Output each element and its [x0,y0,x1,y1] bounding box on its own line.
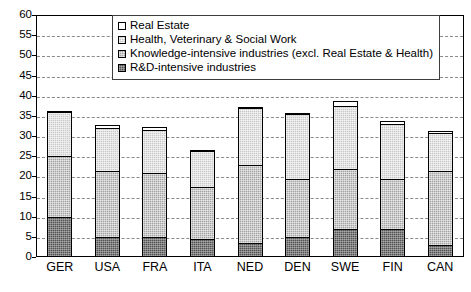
y-tick-label: 35 [19,110,32,122]
bar-segment[interactable] [380,124,405,180]
bar-segment[interactable] [333,229,358,257]
legend-item-knowledge: Knowledge-intensive industries (excl. Re… [118,47,433,61]
bar-segment[interactable] [47,156,72,218]
y-tick-label: 55 [19,29,32,41]
bar-segment[interactable] [238,165,263,244]
bar-segment[interactable] [190,239,215,257]
bar-stack [333,101,358,257]
y-tick-label: 25 [19,150,32,162]
x-tick-label-fin: FIN [369,260,417,274]
bar-segment[interactable] [95,237,120,257]
bar-segment[interactable] [95,171,120,238]
legend-item-health: Health, Veterinary & Social Work [118,33,433,47]
bar-segment[interactable] [95,128,120,172]
bar-stack [285,113,310,257]
y-tick-label: 10 [19,211,32,223]
bar-stack [142,127,167,257]
y-tick-mark [32,257,36,258]
legend-swatch-rnd-icon [118,64,126,72]
y-tick-label: 30 [19,130,32,142]
legend-label-rnd: R&D-intensive industries [130,62,256,74]
y-axis: 051015202530354045505560 [0,15,32,257]
bar-segment[interactable] [47,112,72,157]
bar-segment[interactable] [428,133,453,173]
y-tick-label: 50 [19,50,32,62]
bar-segment[interactable] [190,151,215,187]
bar-stack [95,125,120,257]
bar-stack [190,150,215,257]
bar-segment[interactable] [47,217,72,257]
bar-segment[interactable] [142,173,167,238]
bar-stack [47,111,72,257]
x-tick-label-swe: SWE [321,260,369,274]
x-tick-label-fra: FRA [131,260,179,274]
bar-segment[interactable] [333,169,358,230]
x-axis: GERUSAFRAITANEDDENSWEFINCAN [36,260,464,280]
legend-item-real-estate: Real Estate [118,19,433,33]
x-tick-label-den: DEN [274,260,322,274]
legend-swatch-real-estate-icon [118,22,126,30]
bar-segment[interactable] [190,187,215,240]
bar-segment[interactable] [380,229,405,257]
y-tick-label: 45 [19,70,32,82]
x-tick-label-ger: GER [36,260,84,274]
bar-segment[interactable] [238,243,263,257]
bar-segment[interactable] [285,114,310,181]
x-tick-label-ned: NED [226,260,274,274]
y-tick-label: 15 [19,191,32,203]
bar-stack [380,121,405,257]
bar-segment[interactable] [142,130,167,174]
legend-label-health: Health, Veterinary & Social Work [130,34,297,46]
x-tick-label-can: CAN [416,260,464,274]
legend-label-knowledge: Knowledge-intensive industries (excl. Re… [130,48,433,60]
bar-group-ger[interactable] [47,15,72,257]
stacked-bar-chart: 051015202530354045505560 GERUSAFRAITANED… [0,0,471,292]
y-tick-label: 60 [19,9,32,21]
footer-note [2,281,302,290]
x-tick-label-usa: USA [84,260,132,274]
legend-swatch-knowledge-icon [118,50,126,58]
bar-segment[interactable] [428,171,453,246]
chart-legend: Real Estate Health, Veterinary & Social … [112,15,440,80]
x-tick-label-ita: ITA [179,260,227,274]
legend-item-rnd: R&D-intensive industries [118,61,433,75]
legend-label-real-estate: Real Estate [130,20,189,32]
bar-segment[interactable] [142,237,167,257]
bar-segment[interactable] [285,237,310,257]
y-tick-label: 40 [19,90,32,102]
bar-stack [428,131,453,257]
bar-segment[interactable] [428,245,453,257]
bar-segment[interactable] [380,179,405,229]
bar-segment[interactable] [285,179,310,237]
bar-segment[interactable] [333,106,358,171]
y-tick-label: 20 [19,171,32,183]
legend-swatch-health-icon [118,36,126,44]
bar-stack [238,107,263,257]
bar-segment[interactable] [238,108,263,166]
